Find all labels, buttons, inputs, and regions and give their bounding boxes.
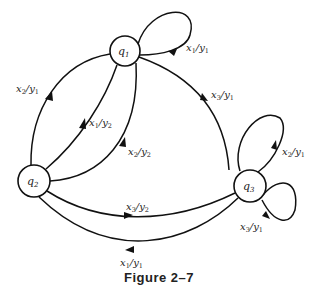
arrow-q1-q1	[168, 49, 177, 56]
edge-label-q2-q1-x1y2: x1/y2	[89, 117, 112, 130]
arrow-q3-q3-x3y1	[262, 211, 270, 219]
edge-label-q1-q3: x3/y1	[211, 89, 234, 102]
state-q1: q1	[110, 36, 140, 66]
state-q2: q2	[18, 165, 50, 197]
state-q3: q3	[234, 170, 266, 202]
edge-label-q3-q2: x1/y1	[120, 257, 143, 270]
edge-label-q3-q3-x2y1: x2/y1	[282, 146, 305, 159]
edge-label-q1-q1: x1/y1	[186, 42, 209, 55]
edge-label-q1-q2: x2/y1	[16, 83, 39, 96]
arrow-q3-q3-x2y1	[271, 140, 277, 150]
figure-caption: Figure 2–7	[0, 270, 318, 285]
edge-q3-q3-x2y1	[238, 115, 283, 172]
state-diagram: q1 q2 q3 x1/y1 x2/y1 x1/y2 x2/y2 x3/y1 x…	[0, 0, 318, 297]
edge-label-q3-q3-x3y1: x3/y1	[240, 221, 263, 234]
arrow-q1-q3	[200, 93, 208, 101]
edge-label-q2-q1-x2y2: x2/y2	[128, 146, 151, 159]
edge-q1-q1	[138, 12, 191, 55]
arrow-q2-q1-x1y2	[79, 118, 86, 129]
arrow-q3-q2	[125, 246, 134, 253]
edge-label-q2-q3: x3/y2	[126, 201, 149, 214]
arrow-q2-q1-x2y2	[119, 137, 126, 147]
edge-q1-q3	[139, 57, 229, 170]
edge-q1-q2	[31, 54, 110, 165]
